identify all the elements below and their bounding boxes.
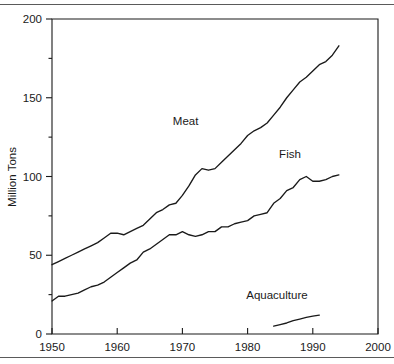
series-annotation-fish: Fish: [279, 148, 301, 160]
series-annotations: MeatFishAquaculture: [173, 115, 308, 302]
y-tick-label: 150: [23, 92, 42, 104]
x-axis-tick-labels: 195019601970198019902000: [39, 341, 391, 353]
x-tick-label: 1970: [170, 341, 196, 353]
x-tick-label: 2000: [365, 341, 391, 353]
y-axis-title: Million Tons: [6, 147, 18, 207]
series-line-aquaculture: [274, 315, 320, 326]
y-tick-label: 0: [36, 328, 42, 340]
y-tick-label: 100: [23, 171, 42, 183]
series-annotation-aquaculture: Aquaculture: [246, 289, 307, 301]
line-chart-plot: 050100150200 195019601970198019902000 Me…: [0, 0, 394, 364]
y-tick-label: 200: [23, 13, 42, 25]
series-line-fish: [52, 175, 339, 301]
x-tick-label: 1990: [300, 341, 326, 353]
y-axis-tick-labels: 050100150200: [23, 13, 42, 340]
x-tick-label: 1980: [235, 341, 261, 353]
y-tick-label: 50: [29, 249, 42, 261]
axis-frame: [52, 19, 378, 334]
x-axis-ticks: [52, 328, 378, 334]
x-tick-label: 1950: [39, 341, 65, 353]
x-tick-label: 1960: [104, 341, 130, 353]
y-axis-ticks: [46, 19, 52, 334]
series-lines: [52, 46, 339, 326]
series-annotation-meat: Meat: [173, 115, 199, 127]
chart-figure: 050100150200 195019601970198019902000 Me…: [0, 0, 394, 364]
